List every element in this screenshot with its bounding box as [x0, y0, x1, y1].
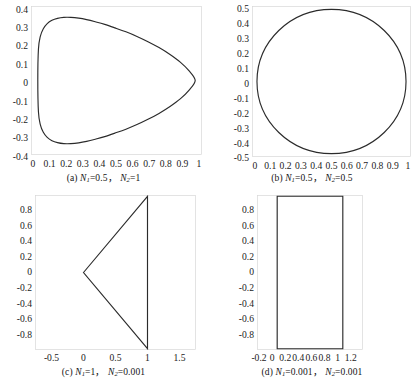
caption-separator: ，	[108, 173, 118, 183]
x-tick-label: 1.2	[345, 352, 357, 363]
y-tick-label: 0	[249, 266, 254, 277]
y-tick-label: 0.2	[237, 48, 249, 59]
y-tick-label: 0	[27, 266, 32, 277]
x-tick-label: 0.6	[305, 352, 317, 363]
y-tick-label: -0.4	[234, 138, 249, 149]
panel-b-caption: (b) N1=0.5， N2=0.5	[207, 170, 417, 184]
y-tick-label: -0.1	[13, 96, 28, 107]
y-tick-label: -0.6	[17, 313, 32, 324]
caption-value-n2: =0.001	[118, 367, 145, 377]
x-tick-label: 0.2	[60, 158, 72, 169]
y-tick-label: 0.5	[237, 3, 249, 14]
panel-d-frame	[258, 196, 363, 350]
panel-c-frame	[36, 196, 196, 350]
x-tick-label: 0	[81, 352, 86, 363]
y-tick-label: -0.4	[239, 298, 254, 309]
y-tick-label: -0.5	[234, 152, 249, 163]
panel-a-x-axis: 0 0.1 0.2 0.3 0.4 0.5 0.6 0.7 0.8 0.9 1	[31, 158, 202, 169]
y-tick-label: -0.8	[17, 329, 32, 340]
x-tick-label: 0.7	[143, 158, 155, 169]
caption-value-n2: =1	[130, 173, 140, 183]
y-tick-label: 0.3	[237, 33, 249, 44]
panel-c: 0.8 0.6 0.4 0.2 0 -0.2 -0.4 -0.6 -0.8 -0…	[0, 190, 207, 384]
panel-b-y-axis: 0.5 0.4 0.3 0.2 0.1 0 -0.1 -0.2 -0.3 -0.…	[234, 3, 249, 164]
y-tick-label: -0.3	[234, 123, 249, 134]
panel-b-plot: 0.5 0.4 0.3 0.2 0.1 0 -0.1 -0.2 -0.3 -0.…	[207, 0, 417, 192]
y-tick-label: 0.2	[242, 251, 254, 262]
x-tick-label: -0.5	[44, 352, 59, 363]
y-tick-label: 0.2	[20, 251, 32, 262]
panel-a-curve	[38, 17, 195, 144]
y-tick-label: 0.1	[16, 59, 28, 70]
panel-d-plot: 0.8 0.6 0.4 0.2 0 -0.2 -0.4 -0.6 -0.8 -0…	[207, 190, 417, 384]
panel-d-curve	[277, 196, 343, 348]
caption-value-n1: =0.001	[285, 367, 312, 377]
caption-separator: ，	[95, 367, 105, 377]
x-tick-label: 0.3	[77, 158, 89, 169]
x-tick-label: 1	[335, 352, 340, 363]
y-tick-label: 0.8	[242, 204, 254, 215]
x-tick-label: 0.1	[44, 158, 56, 169]
caption-label: (d)	[262, 367, 273, 377]
panel-c-plot: 0.8 0.6 0.4 0.2 0 -0.2 -0.4 -0.6 -0.8 -0…	[0, 190, 207, 384]
y-tick-label: 0.6	[242, 220, 254, 231]
x-tick-label: 0.8	[160, 158, 172, 169]
panel-c-x-axis: -0.5 0 0.5 1 1.5	[44, 352, 186, 363]
x-tick-label: 0.2	[279, 352, 291, 363]
y-tick-label: -0.6	[239, 313, 254, 324]
panel-a-plot: 0.4 0.3 0.2 0.1 0 -0.1 -0.2 -0.3 -0.4 0 …	[0, 0, 207, 192]
panel-a: 0.4 0.3 0.2 0.1 0 -0.1 -0.2 -0.3 -0.4 0 …	[0, 0, 207, 192]
panel-d-caption: (d) N1=0.001， N2=0.001	[207, 364, 417, 378]
y-tick-label: -0.3	[13, 132, 28, 143]
x-tick-label: 1	[197, 158, 202, 169]
caption-value-n2: =0.5	[335, 173, 353, 183]
y-tick-label: -0.4	[13, 151, 28, 162]
y-tick-label: 0.8	[20, 204, 32, 215]
y-tick-label: 0.3	[16, 22, 28, 33]
panel-b-frame	[253, 7, 411, 157]
x-tick-label: 0.5	[110, 158, 122, 169]
x-tick-label: 0.6	[127, 158, 139, 169]
panel-c-curve	[84, 196, 148, 348]
x-tick-label: -0.2	[251, 352, 266, 363]
x-tick-label: 1.5	[174, 352, 186, 363]
x-tick-label: 0	[31, 158, 36, 169]
panel-a-y-axis: 0.4 0.3 0.2 0.1 0 -0.1 -0.2 -0.3 -0.4	[13, 4, 28, 162]
y-tick-label: -0.1	[234, 93, 249, 104]
y-tick-label: -0.2	[234, 108, 249, 119]
y-tick-label: -0.2	[239, 282, 254, 293]
y-tick-label: 0.4	[20, 235, 32, 246]
caption-separator: ，	[313, 173, 323, 183]
y-tick-label: 0	[244, 78, 249, 89]
caption-label: (c)	[62, 367, 73, 377]
panel-c-caption: (c) N1=1， N2=0.001	[0, 364, 207, 378]
caption-label: (a)	[67, 173, 78, 183]
y-tick-label: 0.4	[242, 235, 254, 246]
y-tick-label: -0.2	[17, 282, 32, 293]
x-tick-label: 0.4	[292, 352, 304, 363]
y-tick-label: 0.6	[20, 220, 32, 231]
caption-value-n1: =0.5	[295, 173, 313, 183]
panel-d: 0.8 0.6 0.4 0.2 0 -0.2 -0.4 -0.6 -0.8 -0…	[207, 190, 417, 384]
caption-separator: ，	[313, 367, 323, 377]
x-tick-label: 0	[270, 352, 275, 363]
x-tick-label: 0.9	[176, 158, 188, 169]
panel-d-x-axis: -0.2 0 0.2 0.4 0.6 0.8 1 1.2	[251, 352, 356, 363]
panel-b-curve	[257, 9, 406, 153]
y-tick-label: 0.2	[16, 40, 28, 51]
y-tick-label: -0.2	[13, 114, 28, 125]
x-tick-label: 1	[145, 352, 150, 363]
panel-d-y-axis: 0.8 0.6 0.4 0.2 0 -0.2 -0.4 -0.6 -0.8	[239, 204, 254, 340]
y-tick-label: 0.4	[16, 4, 28, 15]
caption-value-n1: =1	[85, 367, 95, 377]
caption-label: (b)	[271, 173, 282, 183]
y-tick-label: 0	[23, 77, 28, 88]
caption-value-n1: =0.5	[90, 173, 108, 183]
panel-c-y-axis: 0.8 0.6 0.4 0.2 0 -0.2 -0.4 -0.6 -0.8	[17, 204, 32, 340]
y-tick-label: -0.8	[239, 329, 254, 340]
y-tick-label: 0.1	[237, 63, 249, 74]
x-tick-label: 0.4	[93, 158, 105, 169]
y-tick-label: -0.4	[17, 298, 32, 309]
x-tick-label: 0.5	[110, 352, 122, 363]
panel-b: 0.5 0.4 0.3 0.2 0.1 0 -0.1 -0.2 -0.3 -0.…	[207, 0, 417, 192]
